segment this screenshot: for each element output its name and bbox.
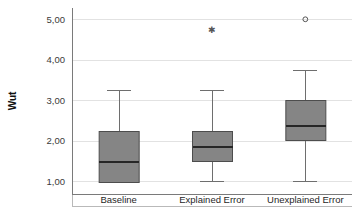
chart-canvas: 1,002,003,004,005,00 Wut ✱ BaselineExpla… (0, 0, 362, 216)
category-label: Baseline (100, 194, 136, 205)
box-iqr (99, 132, 139, 183)
category-label: Explained Error (179, 194, 244, 205)
boxplot-chart: 1,002,003,004,005,00 Wut ✱ BaselineExpla… (0, 0, 362, 216)
y-tick-label: 1,00 (47, 176, 66, 187)
extreme-outlier-marker: ✱ (208, 25, 216, 35)
y-tick-label: 4,00 (47, 54, 66, 65)
y-tick-label: 3,00 (47, 95, 66, 106)
category-label: Unexplained Error (267, 194, 344, 205)
y-axis-title: Wut (7, 91, 18, 110)
y-tick-label: 2,00 (47, 135, 66, 146)
y-tick-label: 5,00 (47, 14, 66, 25)
box-iqr (286, 101, 326, 141)
y-axis-title-group: Wut (7, 91, 18, 110)
